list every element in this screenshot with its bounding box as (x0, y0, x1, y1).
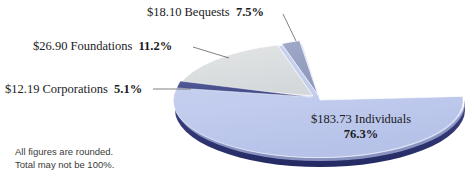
slice-label-corporations: $12.19 Corporations 5.1% (5, 82, 142, 97)
slice-label-foundations-percent: 11.2% (139, 39, 173, 53)
slice-label-individuals: $183.73 Individuals 76.3% (311, 112, 411, 142)
slice-label-corporations-percent: 5.1% (114, 82, 142, 96)
slice-label-bequests-amount: $18.10 Bequests (147, 5, 230, 19)
pie-chart-figure: $18.10 Bequests 7.5% $26.90 Foundations … (0, 0, 474, 189)
footnote-line-2: Total may not be 100%. (15, 159, 114, 172)
slice-label-bequests: $18.10 Bequests 7.5% (147, 5, 264, 20)
slice-label-foundations: $26.90 Foundations 11.2% (33, 39, 172, 54)
slice-label-bequests-percent: 7.5% (236, 5, 264, 19)
slice-label-corporations-amount: $12.19 Corporations (5, 82, 108, 96)
slice-label-individuals-percent: 76.3% (311, 127, 411, 142)
slice-label-foundations-amount: $26.90 Foundations (33, 39, 132, 53)
footnote-line-1: All figures are rounded. (15, 146, 114, 159)
chart-footnote: All figures are rounded. Total may not b… (15, 146, 114, 171)
slice-label-individuals-amount: $183.73 Individuals (311, 112, 411, 126)
leader-line-bequests (283, 14, 296, 41)
leader-line-foundations (193, 47, 229, 58)
